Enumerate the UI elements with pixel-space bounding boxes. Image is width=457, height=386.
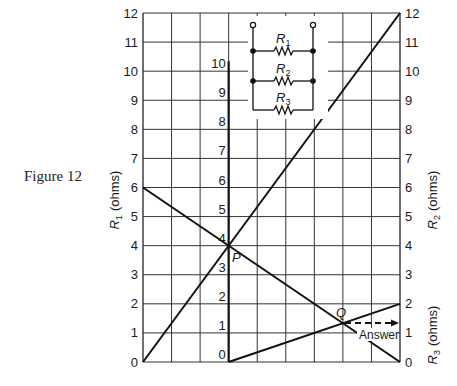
right-tick-label: 10 bbox=[405, 64, 419, 79]
point-q-label: Q bbox=[336, 305, 346, 320]
middle-tick-label: 6 bbox=[218, 173, 225, 188]
left-tick-label: 9 bbox=[131, 93, 138, 108]
right-tick-label: 8 bbox=[405, 122, 412, 137]
middle-tick-label: 8 bbox=[218, 114, 225, 129]
right-tick-label: 6 bbox=[405, 180, 412, 195]
left-tick-label: 6 bbox=[131, 180, 138, 195]
left-tick-label: 7 bbox=[131, 151, 138, 166]
right-tick-label: 3 bbox=[405, 267, 412, 282]
left-tick-label: 2 bbox=[131, 296, 138, 311]
right-tick-label: 11 bbox=[405, 35, 419, 50]
left-tick-label: 1 bbox=[131, 325, 138, 340]
right-tick-label: 2 bbox=[405, 296, 412, 311]
right-tick-label: 7 bbox=[405, 151, 412, 166]
middle-tick-label: 10 bbox=[211, 56, 225, 71]
middle-tick-label: 2 bbox=[218, 289, 225, 304]
right-tick-label: 12 bbox=[405, 6, 419, 21]
middle-tick-label: 9 bbox=[218, 85, 225, 100]
left-axis-title: R1(ohms) bbox=[107, 171, 124, 230]
left-tick-label: 12 bbox=[124, 6, 138, 21]
middle-tick-label: 3 bbox=[218, 260, 225, 275]
middle-tick-label: 1 bbox=[218, 318, 225, 333]
nomograph-chart: 0123456789101112012345678910111201234567… bbox=[0, 0, 457, 386]
right-upper-axis-title: R2(ohms) bbox=[425, 171, 442, 230]
terminal-icon bbox=[310, 22, 315, 27]
left-tick-label: 3 bbox=[131, 267, 138, 282]
svg-text:R2(ohms): R2(ohms) bbox=[425, 171, 442, 230]
terminal-icon bbox=[250, 22, 255, 27]
point-p-label: P bbox=[232, 250, 241, 265]
middle-tick-label: 0 bbox=[218, 347, 225, 362]
svg-text:R1(ohms): R1(ohms) bbox=[107, 171, 124, 230]
left-tick-label: 10 bbox=[124, 64, 138, 79]
right-lower-axis-title: R3(ohms) bbox=[425, 306, 442, 365]
parallel-resistor-circuit: R1 R2 R3 bbox=[248, 16, 328, 119]
svg-text:R3(ohms): R3(ohms) bbox=[425, 306, 442, 365]
right-tick-label: 9 bbox=[405, 93, 412, 108]
left-tick-label: 8 bbox=[131, 122, 138, 137]
left-tick-label: 0 bbox=[131, 355, 138, 370]
left-tick-label: 11 bbox=[125, 35, 139, 50]
middle-tick-label: 7 bbox=[218, 143, 225, 158]
right-tick-label: 0 bbox=[405, 355, 412, 370]
right-tick-label: 1 bbox=[405, 325, 412, 340]
arrowhead-icon bbox=[391, 320, 399, 327]
middle-tick-label: 5 bbox=[218, 202, 225, 217]
left-tick-label: 5 bbox=[131, 209, 138, 224]
right-tick-label: 5 bbox=[405, 209, 412, 224]
left-tick-label: 4 bbox=[131, 238, 138, 253]
answer-label: Answer bbox=[359, 328, 399, 342]
right-tick-label: 4 bbox=[405, 238, 412, 253]
